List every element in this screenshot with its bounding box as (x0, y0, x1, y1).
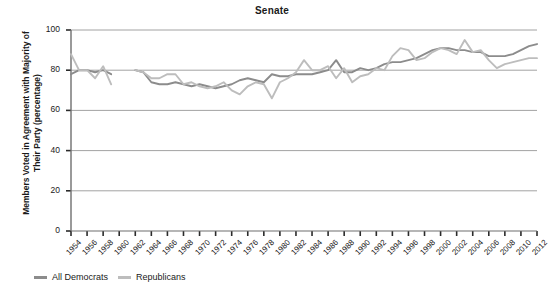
y-tick-label-20: 20 (34, 185, 60, 195)
series-line-republicans-seg0 (71, 54, 111, 84)
y-tick-label-0: 0 (34, 225, 60, 235)
y-tick-label-40: 40 (34, 145, 60, 155)
y-axis-ticks (66, 30, 71, 231)
y-tick-label-100: 100 (34, 24, 60, 34)
legend-swatch-icon-republicans (118, 276, 131, 279)
legend-item-republicans: Republicans (118, 272, 186, 282)
legend-label-republicans: Republicans (136, 272, 186, 282)
gridlines (71, 30, 537, 191)
series-line-republicans-seg1 (135, 40, 537, 98)
legend-swatch-icon-all-democrats (34, 276, 47, 279)
data-series (71, 40, 537, 98)
chart-legend: All Democrats Republicans (34, 272, 186, 282)
y-tick-label-60: 60 (34, 104, 60, 114)
y-tick-label-80: 80 (34, 64, 60, 74)
legend-item-all-democrats: All Democrats (34, 272, 108, 282)
legend-label-all-democrats: All Democrats (52, 272, 108, 282)
x-axis-ticks (71, 231, 537, 236)
